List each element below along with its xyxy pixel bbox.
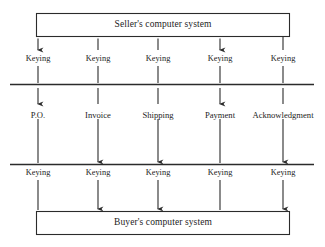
- buyer-system-label: Buyer's computer system: [36, 217, 290, 227]
- document-label-acknowledgment: Acknowledgment: [252, 110, 313, 120]
- keying-label-top-4: Keying: [208, 54, 233, 63]
- keying-label-top-3: Keying: [146, 54, 171, 63]
- diagram-graphics: [0, 0, 325, 247]
- keying-label-top-5: Keying: [271, 54, 296, 63]
- document-label-invoice: Invoice: [85, 110, 111, 120]
- keying-label-top-1: Keying: [26, 54, 51, 63]
- keying-label-bottom-5: Keying: [271, 168, 296, 177]
- keying-label-bottom-1: Keying: [26, 168, 51, 177]
- keying-label-top-2: Keying: [86, 54, 111, 63]
- keying-label-bottom-3: Keying: [146, 168, 171, 177]
- seller-system-label: Seller's computer system: [36, 19, 290, 29]
- document-label-payment: Payment: [205, 110, 235, 120]
- document-label-shipping: Shipping: [142, 110, 173, 120]
- keying-label-bottom-2: Keying: [86, 168, 111, 177]
- diagram-canvas: Seller's computer system Buyer's compute…: [0, 0, 325, 247]
- keying-label-bottom-4: Keying: [208, 168, 233, 177]
- document-label-po: P.O.: [31, 110, 45, 120]
